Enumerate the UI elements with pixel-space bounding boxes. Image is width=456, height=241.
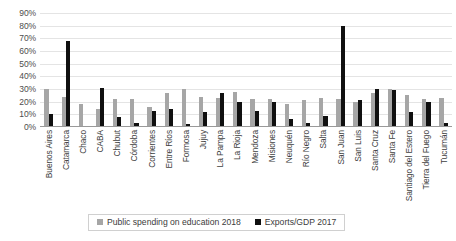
x-axis-label-cell: Tucumán	[435, 128, 452, 206]
bar-group	[349, 13, 366, 127]
y-axis-tick-label: 0%	[24, 122, 36, 132]
bar-exports-gdp	[341, 26, 345, 127]
bar-group	[160, 13, 177, 127]
x-axis-label-cell: Chubut	[109, 128, 126, 206]
x-axis-tick-label: San Juan	[336, 130, 346, 165]
bar-exports-gdp	[272, 102, 276, 127]
bar-exports-gdp	[169, 109, 173, 127]
y-axis-tick-label: 60%	[19, 46, 36, 56]
x-axis-tick-label: Neuquén	[284, 130, 294, 163]
x-axis-tick-label: Mendoza	[250, 130, 260, 164]
y-axis-tick-label: 40%	[19, 71, 36, 81]
y-axis-tick-label: 80%	[19, 21, 36, 31]
bar-exports-gdp	[375, 89, 379, 127]
x-axis-tick-label: Tucumán	[439, 130, 449, 164]
x-axis-tick-label: Formosa	[181, 130, 191, 162]
y-axis-tick-label: 50%	[19, 59, 36, 69]
y-axis-tick-label: 30%	[19, 84, 36, 94]
x-axis-label-cell: Misiones	[263, 128, 280, 206]
bar-group	[177, 13, 194, 127]
bar-group	[57, 13, 74, 127]
bar-group	[143, 13, 160, 127]
bar-group	[229, 13, 246, 127]
x-axis-tick-label: Entre Ríos	[164, 130, 174, 169]
x-axis-label-cell: Santiago del Estero	[401, 128, 418, 206]
bar-exports-gdp	[426, 102, 430, 127]
x-axis-tick-label: Río Negro	[301, 130, 311, 167]
x-axis-tick-label: Misiones	[267, 130, 277, 162]
x-axis-tick-label: Chaco	[78, 130, 88, 154]
bar-group	[126, 13, 143, 127]
bar-exports-gdp	[392, 90, 396, 127]
bar-exports-gdp	[358, 100, 362, 127]
x-axis-tick-label: Salta	[318, 130, 328, 149]
bar-exports-gdp	[409, 112, 413, 127]
legend-swatch-icon	[97, 219, 103, 225]
bar-exports-gdp	[66, 41, 70, 127]
legend-label: Public spending on education 2018	[107, 217, 241, 227]
x-axis-label-cell: Tierra del Fuego	[418, 128, 435, 206]
x-axis-label-cell: La Pampa	[212, 128, 229, 206]
x-axis-label-cell: Río Negro	[298, 128, 315, 206]
x-axis-tick-label: Buenos Aires	[44, 130, 54, 178]
x-axis-tick-label: Santa Cruz	[370, 130, 380, 171]
bar-public-spending	[182, 89, 186, 127]
bar-exports-gdp	[237, 102, 241, 127]
x-axis-tick-label: Catamarca	[61, 130, 71, 170]
bar-group	[109, 13, 126, 127]
bar-group	[332, 13, 349, 127]
x-axis-line	[40, 126, 452, 127]
legend-item[interactable]: Exports/GDP 2017	[255, 217, 337, 227]
x-axis-label-cell: Entre Ríos	[160, 128, 177, 206]
y-axis-tick-label: 10%	[19, 109, 36, 119]
x-axis-tick-label: La Rioja	[232, 130, 242, 160]
y-axis-tick-label: 70%	[19, 33, 36, 43]
legend-item[interactable]: Public spending on education 2018	[97, 217, 241, 227]
x-axis-tick-label: CABA	[95, 130, 105, 152]
x-axis: Buenos AiresCatamarcaChacoCABAChubutCórd…	[40, 128, 452, 206]
bar-series-container	[40, 13, 452, 127]
bar-group	[366, 13, 383, 127]
x-axis-label-cell: San Juan	[332, 128, 349, 206]
x-axis-label-cell: La Rioja	[229, 128, 246, 206]
y-axis-tick-label: 20%	[19, 97, 36, 107]
bar-exports-gdp	[152, 111, 156, 127]
bar-group	[315, 13, 332, 127]
x-axis-label-cell: Córdoba	[126, 128, 143, 206]
plot-area	[40, 13, 452, 127]
x-axis-label-cell: Formosa	[177, 128, 194, 206]
bar-group	[418, 13, 435, 127]
x-axis-label-cell: Chaco	[74, 128, 91, 206]
bar-group	[74, 13, 91, 127]
x-axis-tick-label: San Luis	[353, 130, 363, 162]
bar-group	[246, 13, 263, 127]
bar-group	[40, 13, 57, 127]
x-axis-label-cell: Neuquén	[280, 128, 297, 206]
legend-label: Exports/GDP 2017	[265, 217, 337, 227]
bar-public-spending	[79, 104, 83, 127]
x-axis-tick-label: Córdoba	[129, 130, 139, 161]
legend-swatch-icon	[255, 219, 261, 225]
x-axis-label-cell: Santa Fe	[383, 128, 400, 206]
x-axis-tick-label: Jujuy	[198, 130, 208, 149]
x-axis-label-cell: San Luis	[349, 128, 366, 206]
y-axis: 0%10%20%30%40%50%60%70%80%90%	[0, 0, 40, 141]
bar-group	[212, 13, 229, 127]
bar-group	[383, 13, 400, 127]
bar-group	[280, 13, 297, 127]
x-axis-tick-label: Chubut	[112, 130, 122, 156]
x-axis-label-cell: Mendoza	[246, 128, 263, 206]
x-axis-tick-label: La Pampa	[215, 130, 225, 167]
bar-exports-gdp	[220, 93, 224, 127]
bar-group	[298, 13, 315, 127]
bar-group	[92, 13, 109, 127]
x-axis-tick-label: Corrientes	[147, 130, 157, 168]
x-axis-label-cell: Jujuy	[195, 128, 212, 206]
x-axis-label-cell: Santa Cruz	[366, 128, 383, 206]
x-axis-label-cell: Catamarca	[57, 128, 74, 206]
bar-group	[401, 13, 418, 127]
x-axis-tick-label: Santiago del Estero	[404, 130, 414, 201]
bar-chart: 0%10%20%30%40%50%60%70%80%90% Buenos Air…	[0, 0, 456, 241]
x-axis-label-cell: CABA	[92, 128, 109, 206]
x-axis-tick-label: Santa Fe	[387, 130, 397, 163]
